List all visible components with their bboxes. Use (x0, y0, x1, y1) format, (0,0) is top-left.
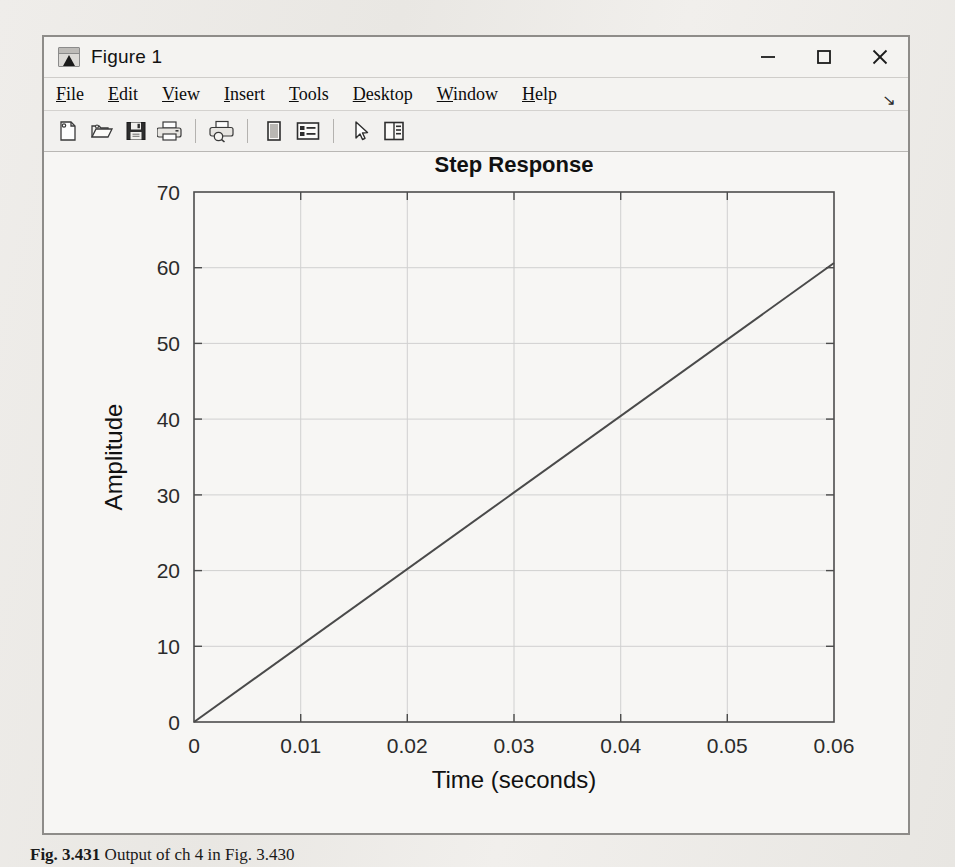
x-tick-0.05: 0.05 (707, 734, 748, 757)
save-figure-icon (124, 119, 148, 143)
edit-plot-button[interactable] (344, 116, 375, 147)
new-figure-button[interactable] (52, 116, 83, 147)
open-file-button[interactable] (86, 116, 117, 147)
menu-item-window[interactable]: Window (425, 84, 510, 105)
y-tick-70: 70 (157, 181, 180, 204)
edit-plot-arrow-icon (348, 119, 372, 143)
toolbar-separator-1 (195, 119, 196, 143)
minimize-icon (757, 46, 779, 68)
open-file-icon (90, 119, 114, 143)
plot-area[interactable]: Step Response 0 10 20 30 40 50 60 70 0 0… (44, 152, 908, 833)
y-tick-30: 30 (157, 484, 180, 507)
show-plot-tools-button[interactable] (378, 116, 409, 147)
menu-bar: File Edit View Insert Tools Desktop Wind… (44, 77, 908, 110)
minimize-button[interactable] (740, 37, 796, 77)
insert-colorbar-button[interactable] (292, 116, 323, 147)
print-figure-button[interactable] (154, 116, 185, 147)
print-figure-icon (157, 119, 183, 143)
menu-label-view: iew (174, 84, 200, 104)
save-figure-button[interactable] (120, 116, 151, 147)
close-button[interactable] (852, 37, 908, 77)
chart-grid (194, 192, 834, 722)
close-icon (869, 46, 891, 68)
menu-item-view[interactable]: View (150, 84, 212, 105)
print-preview-icon (209, 119, 235, 143)
insert-legend-icon (262, 119, 286, 143)
maximize-button[interactable] (796, 37, 852, 77)
y-tick-0: 0 (168, 711, 180, 734)
window-title: Figure 1 (91, 46, 162, 68)
show-plot-tools-icon (382, 119, 406, 143)
step-response-chart: Step Response 0 10 20 30 40 50 60 70 0 0… (44, 152, 908, 836)
window-controls (740, 37, 908, 77)
menu-label-edit: dit (119, 84, 138, 104)
maximize-icon (813, 46, 835, 68)
menu-item-insert[interactable]: Insert (212, 84, 277, 105)
new-figure-icon (56, 119, 80, 143)
menu-item-file[interactable]: File (44, 84, 96, 105)
title-bar: Figure 1 (44, 37, 908, 77)
menu-label-desktop: esktop (366, 84, 413, 104)
caption-number: Fig. 3.431 (30, 845, 100, 864)
toolbar (44, 110, 908, 152)
y-tick-10: 10 (157, 635, 180, 658)
x-tick-0.02: 0.02 (387, 734, 428, 757)
figure-caption: Fig. 3.431 Output of ch 4 in Fig. 3.430 (30, 845, 530, 865)
x-axis-label: Time (seconds) (432, 766, 596, 793)
caption-text: Output of ch 4 in Fig. 3.430 (105, 845, 295, 864)
insert-legend-button[interactable] (258, 116, 289, 147)
x-tick-0: 0 (188, 734, 200, 757)
menu-label-window: indow (453, 84, 498, 104)
menu-overflow-icon[interactable]: ↘ (883, 91, 897, 109)
y-tick-60: 60 (157, 256, 180, 279)
x-tick-0.03: 0.03 (494, 734, 535, 757)
y-tick-50: 50 (157, 332, 180, 355)
y-axis-label: Amplitude (100, 404, 127, 511)
menu-label-tools: ools (299, 84, 329, 104)
menu-item-edit[interactable]: Edit (96, 84, 150, 105)
insert-colorbar-icon (295, 119, 321, 143)
toolbar-separator-3 (333, 119, 334, 143)
menu-item-desktop[interactable]: Desktop (341, 84, 425, 105)
matlab-figure-icon (58, 47, 80, 67)
menu-label-file: ile (66, 84, 84, 104)
y-tick-labels: 0 10 20 30 40 50 60 70 (157, 181, 180, 734)
menu-item-tools[interactable]: Tools (277, 84, 341, 105)
y-tick-20: 20 (157, 559, 180, 582)
menu-item-help[interactable]: Help (510, 84, 569, 105)
toolbar-separator-2 (247, 119, 248, 143)
x-tick-labels: 0 0.01 0.02 0.03 0.04 0.05 0.06 (188, 734, 854, 757)
x-tick-0.01: 0.01 (280, 734, 321, 757)
x-tick-0.04: 0.04 (600, 734, 641, 757)
figure-window: Figure 1 File Edit View (42, 35, 910, 835)
x-tick-0.06: 0.06 (814, 734, 855, 757)
print-preview-button[interactable] (206, 116, 237, 147)
menu-label-insert: nsert (230, 84, 265, 104)
menu-label-help: elp (535, 84, 557, 104)
chart-title: Step Response (435, 152, 594, 177)
y-tick-40: 40 (157, 408, 180, 431)
